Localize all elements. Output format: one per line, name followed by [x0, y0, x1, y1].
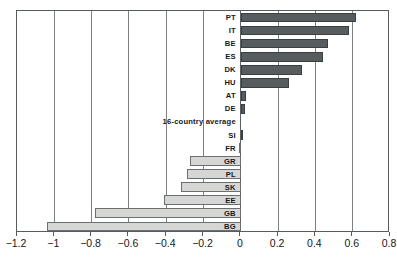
x-tick-label: −1.2 — [6, 237, 27, 249]
category-label-be: BE — [225, 37, 239, 50]
bar-gb — [95, 208, 240, 218]
bar-row: GR — [17, 155, 388, 168]
bar-chart: PTITBEESDKHUATDE16-country averageSIFRGR… — [0, 0, 397, 259]
x-tick — [239, 232, 240, 236]
bar-pt — [241, 13, 357, 23]
plot-area: PTITBEESDKHUATDE16-country averageSIFRGR… — [16, 10, 389, 232]
x-tick — [16, 232, 17, 236]
category-label-it: IT — [229, 24, 239, 37]
bar-row: SI — [17, 129, 388, 142]
bar-row: BE — [17, 37, 388, 50]
category-label-sk: SK — [225, 181, 239, 194]
bar-bg — [47, 222, 241, 232]
bar-rows: PTITBEESDKHUATDE16-country averageSIFRGR… — [17, 11, 388, 231]
category-label-pt: PT — [226, 11, 239, 24]
x-tick — [314, 232, 315, 236]
category-label-hu: HU — [224, 76, 238, 89]
x-tick-label: −0.4 — [155, 237, 176, 249]
x-tick — [165, 232, 166, 236]
bar-it — [241, 26, 349, 36]
bar-row: SK — [17, 181, 388, 194]
category-label-si: SI — [228, 129, 239, 142]
x-axis: −1.2−1−0.8−0.6−0.4−0.200.20.40.60.8 — [0, 232, 397, 259]
category-label-16-country-average: 16-country average — [163, 115, 239, 128]
x-tick — [277, 232, 278, 236]
bar-row: FR — [17, 142, 388, 155]
bar-dk — [241, 65, 303, 75]
x-tick-label: 0.6 — [344, 237, 359, 249]
category-label-pl: PL — [226, 168, 239, 181]
bar-row: PT — [17, 11, 388, 24]
category-label-es: ES — [225, 50, 239, 63]
x-tick-label: −0.8 — [80, 237, 101, 249]
x-tick — [127, 232, 128, 236]
x-tick — [389, 232, 390, 236]
bar-be — [241, 39, 329, 49]
bar-row: DE — [17, 102, 388, 115]
x-tick-label: −0.6 — [118, 237, 139, 249]
x-tick-label: 0 — [237, 237, 243, 249]
x-tick — [351, 232, 352, 236]
x-tick — [90, 232, 91, 236]
x-tick-label: −0.2 — [192, 237, 213, 249]
x-tick — [53, 232, 54, 236]
bar-si — [241, 130, 243, 140]
x-tick — [202, 232, 203, 236]
category-label-ee: EE — [225, 194, 239, 207]
category-label-dk: DK — [224, 63, 238, 76]
category-label-at: AT — [226, 89, 239, 102]
bar-at — [241, 91, 247, 101]
category-label-gb: GB — [224, 207, 239, 220]
bar-row: HU — [17, 76, 388, 89]
x-tick-label: 0.2 — [270, 237, 285, 249]
bar-row: PL — [17, 168, 388, 181]
bar-row: IT — [17, 24, 388, 37]
bar-es — [241, 52, 323, 62]
bar-fr — [239, 143, 241, 153]
category-label-fr: FR — [225, 142, 239, 155]
bar-row: ES — [17, 50, 388, 63]
bar-hu — [241, 78, 289, 88]
x-tick-label: 0.4 — [307, 237, 322, 249]
bar-row: GB — [17, 207, 388, 220]
category-label-gr: GR — [224, 155, 239, 168]
bar-row: 16-country average — [17, 115, 388, 128]
bar-de — [241, 104, 245, 114]
bar-row: EE — [17, 194, 388, 207]
bar-row: AT — [17, 89, 388, 102]
bar-row: DK — [17, 63, 388, 76]
x-tick-label: 0.8 — [382, 237, 397, 249]
x-tick-label: −1 — [47, 237, 59, 249]
category-label-de: DE — [225, 102, 239, 115]
